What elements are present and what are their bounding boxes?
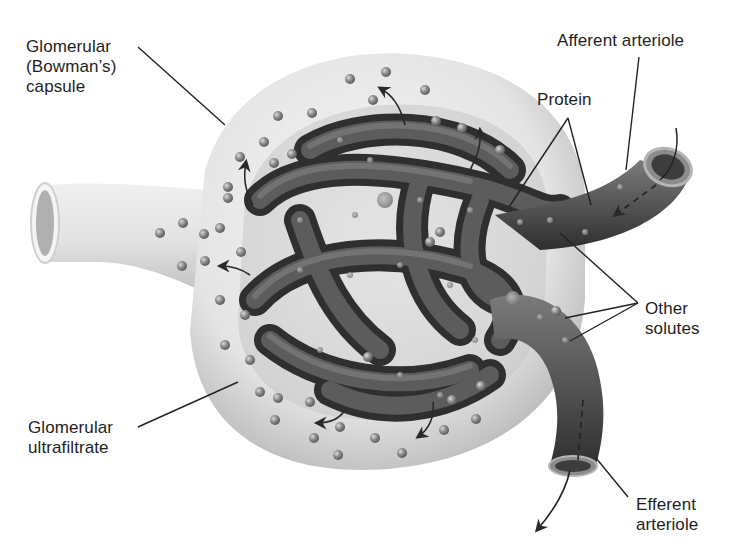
- label-efferent-arteriole: Efferent arteriole: [636, 495, 698, 535]
- label-bowmans-capsule: Glomerular (Bowman’s) capsule: [26, 37, 116, 97]
- label-glomerular-ultrafiltrate: Glomerular ultrafiltrate: [28, 418, 113, 458]
- label-protein: Protein: [537, 90, 592, 110]
- glomerulus-diagram: Glomerular (Bowman’s) capsule Afferent a…: [0, 0, 738, 557]
- label-other-solutes: Other solutes: [645, 299, 700, 339]
- label-afferent-arteriole: Afferent arteriole: [557, 31, 684, 51]
